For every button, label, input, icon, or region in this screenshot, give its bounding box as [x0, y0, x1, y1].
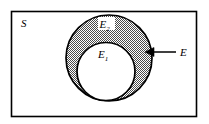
label-inner-set-subscript: 1 — [105, 55, 109, 63]
label-outer-set-subscript: 2 — [106, 25, 110, 33]
venn-diagram-canvas: S E2 E1 E — [0, 0, 209, 124]
label-annulus-callout: E — [179, 46, 187, 58]
venn-diagram-figure: S E2 E1 E — [0, 0, 209, 124]
label-sample-space: S — [21, 17, 27, 29]
inner-circle-e1 — [77, 43, 135, 101]
